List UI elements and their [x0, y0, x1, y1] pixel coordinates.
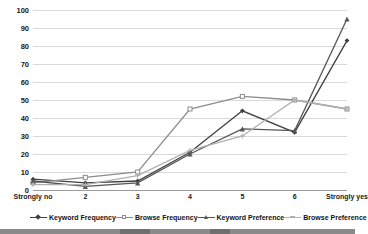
x-axis-line — [33, 190, 347, 191]
legend-item-browse-preference[interactable]: Browse Preference — [284, 214, 366, 221]
series-line — [33, 100, 347, 185]
series-line — [33, 41, 347, 183]
chart-legend: Keyword FrequencyBrowse FrequencyKeyword… — [30, 210, 350, 224]
data-point — [83, 175, 87, 179]
x-tick-label: 6 — [293, 193, 297, 200]
series-layer — [33, 10, 347, 190]
legend-swatch-icon — [198, 214, 215, 221]
series-line — [33, 19, 347, 186]
plot-area — [33, 10, 347, 190]
x-tick-label: 4 — [188, 193, 192, 200]
x-tick-label: 3 — [136, 193, 140, 200]
legend-label: Browse Frequency — [135, 214, 198, 221]
x-tick-label: 5 — [240, 193, 244, 200]
x-tick-label: Strongly yes — [326, 193, 368, 200]
legend-swatch-icon — [116, 214, 133, 221]
y-tick-label: 30 — [21, 132, 29, 141]
y-tick-label: 60 — [21, 78, 29, 87]
y-tick-label: 70 — [21, 60, 29, 69]
legend-swatch-icon — [30, 214, 47, 221]
x-tick-label: Strongly no — [14, 193, 53, 200]
y-tick-label: 50 — [21, 96, 29, 105]
data-point — [188, 107, 192, 111]
y-tick-label: 40 — [21, 114, 29, 123]
y-tick-label: 90 — [21, 24, 29, 33]
y-tick-label: 80 — [21, 42, 29, 51]
legend-item-keyword-frequency[interactable]: Keyword Frequency — [30, 214, 116, 221]
legend-swatch-icon — [284, 214, 301, 221]
legend-item-keyword-preference[interactable]: Keyword Preference — [198, 214, 285, 221]
legend-label: Keyword Frequency — [49, 214, 116, 221]
y-tick-label: 100 — [16, 6, 29, 15]
series-browse-frequency — [31, 94, 349, 184]
y-tick-label: 10 — [21, 168, 29, 177]
y-tick-label: 20 — [21, 150, 29, 159]
y-axis-tick-labels: 0102030405060708090100 — [0, 10, 29, 190]
data-point — [240, 94, 244, 98]
series-keyword-preference — [30, 16, 349, 189]
data-point — [344, 16, 349, 21]
x-axis-tick-labels: Strongly no23456Strongly yes — [33, 193, 347, 207]
legend-item-browse-frequency[interactable]: Browse Frequency — [116, 214, 198, 221]
x-tick-label: 2 — [83, 193, 87, 200]
page-edge-artifact — [0, 229, 355, 234]
series-keyword-frequency — [31, 38, 350, 185]
legend-label: Keyword Preference — [217, 214, 285, 221]
legend-label: Browse Preference — [303, 214, 366, 221]
